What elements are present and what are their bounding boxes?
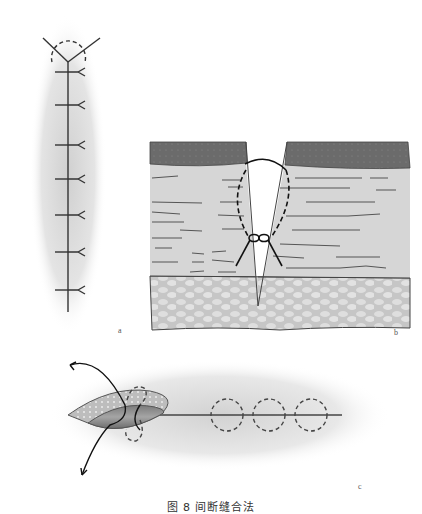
wound-suture-diagram: [40, 345, 400, 495]
panel-label-c: c: [358, 482, 362, 491]
panel-label-b: b: [394, 328, 398, 337]
panel-c: c: [40, 345, 400, 495]
panel-label-a: a: [118, 326, 122, 335]
suture-line-diagram: [0, 0, 140, 340]
panel-b: b: [140, 130, 422, 340]
panel-a: a: [0, 0, 140, 340]
skin-cross-section: [140, 130, 422, 340]
figure-caption: 图 8 间断缝合法: [0, 498, 422, 514]
